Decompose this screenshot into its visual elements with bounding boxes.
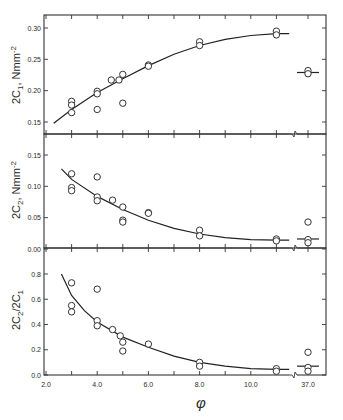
data-point	[145, 63, 151, 69]
fit-curve	[54, 34, 290, 124]
data-point	[120, 71, 126, 77]
data-point	[305, 368, 311, 374]
data-point	[68, 302, 74, 308]
data-point	[117, 333, 123, 339]
data-point	[273, 368, 279, 374]
x-tick-label: 37.0	[301, 381, 315, 388]
data-point	[305, 71, 311, 77]
x-tick-label: 8.0	[195, 381, 205, 388]
y-axis-title: 2C2/2C1	[10, 289, 25, 330]
x-tick-label: 4.0	[92, 381, 102, 388]
data-point	[120, 339, 126, 345]
data-point	[94, 106, 100, 112]
y-axis-title: 2C2, Nmm-2	[9, 160, 25, 219]
data-point	[120, 100, 126, 106]
data-point	[68, 102, 74, 108]
data-point	[196, 363, 202, 369]
y-tick-label: 0.2	[31, 346, 41, 353]
data-point	[68, 309, 74, 315]
y-tick-label: 0.4	[31, 321, 41, 328]
y-tick-label: 0.20	[27, 87, 41, 94]
bottom-panel: 0.80.60.40.20.02C2/2C1	[10, 248, 326, 379]
figure: 0.300.250.200.152C1, Nmm-20.150.100.050.…	[0, 0, 343, 420]
data-point	[305, 219, 311, 225]
y-tick-label: 0.15	[27, 152, 41, 159]
data-point	[273, 32, 279, 38]
data-point	[120, 348, 126, 354]
data-point	[120, 219, 126, 225]
panels: 0.300.250.200.152C1, Nmm-20.150.100.050.…	[9, 15, 326, 379]
plot-frame	[44, 15, 326, 134]
data-point	[94, 198, 100, 204]
y-tick-label: 0.30	[27, 25, 41, 32]
x-tick-label: 6.0	[144, 381, 154, 388]
data-point	[273, 238, 279, 244]
top-panel: 0.300.250.200.152C1, Nmm-2	[9, 15, 326, 137]
data-point	[116, 77, 122, 83]
y-tick-label: 0.6	[31, 296, 41, 303]
data-point	[68, 171, 74, 177]
data-point	[109, 326, 115, 332]
x-axis-title: φ	[196, 394, 206, 411]
x-tick-label: 10.0	[244, 381, 258, 388]
data-point	[94, 174, 100, 180]
data-point	[68, 188, 74, 194]
middle-panel: 0.150.100.050.002C2, Nmm-2	[9, 134, 326, 253]
data-point	[109, 197, 115, 203]
data-point	[68, 280, 74, 286]
x-axis: 2.04.06.08.010.037.0φ	[41, 381, 315, 411]
chart-svg: 0.300.250.200.152C1, Nmm-20.150.100.050.…	[0, 0, 343, 420]
data-point	[305, 349, 311, 355]
x-tick-label: 2.0	[41, 381, 51, 388]
data-point	[120, 204, 126, 210]
data-point	[108, 77, 114, 83]
data-point	[145, 210, 151, 216]
data-point	[145, 341, 151, 347]
data-point	[196, 42, 202, 48]
y-tick-label: 0.00	[27, 246, 41, 253]
data-point	[94, 286, 100, 292]
y-tick-label: 0.25	[27, 56, 41, 63]
y-tick-label: 0.0	[31, 372, 41, 379]
data-point	[305, 240, 311, 246]
y-tick-label: 0.10	[27, 183, 41, 190]
y-tick-label: 0.15	[27, 119, 41, 126]
data-point	[94, 91, 100, 97]
data-point	[196, 233, 202, 239]
data-point	[94, 323, 100, 329]
data-point	[68, 109, 74, 115]
y-axis-title: 2C1, Nmm-2	[9, 45, 25, 104]
y-tick-label: 0.8	[31, 271, 41, 278]
y-tick-label: 0.05	[27, 214, 41, 221]
